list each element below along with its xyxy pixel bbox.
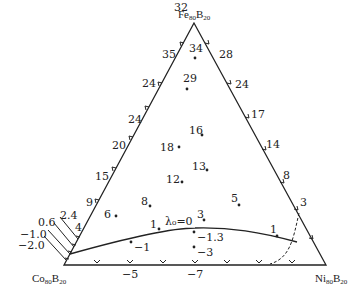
point-label: 5	[231, 192, 238, 205]
left-edge-label: 24	[128, 113, 142, 126]
point-label: 12	[166, 173, 180, 186]
bottom-edge-label: −5	[122, 268, 138, 281]
right-edge-label: 14	[266, 138, 280, 151]
point-label: 1	[270, 223, 277, 236]
point-label: 34	[189, 42, 203, 55]
point-label: −1	[134, 241, 150, 254]
point-label: 18	[160, 141, 174, 154]
ternary-diagram: Fe80B20 Co80B20 Ni80B20	[0, 0, 360, 293]
left-edge-label: 9	[86, 196, 93, 209]
point-label: −3	[197, 246, 213, 259]
point-label: 29	[183, 72, 197, 85]
curve-label: λ₀=0	[165, 215, 193, 228]
point-label: 1	[150, 218, 157, 231]
point-label: 13	[192, 160, 206, 173]
left-edge-label: 4	[75, 221, 82, 234]
left-edge-label: 24	[142, 77, 156, 90]
left-edge-label: 15	[95, 170, 109, 183]
right-edge-label: 3	[300, 196, 307, 209]
vertex-left-label: Co80B20	[32, 272, 67, 286]
point-label: 3	[197, 208, 204, 221]
right-edge-label: 17	[251, 108, 265, 121]
bottom-edge-ticks	[94, 260, 295, 263]
bottom-edge-label: −7	[187, 268, 203, 281]
left-edge-label: −2.0	[18, 239, 45, 252]
point-label: 8	[141, 195, 148, 208]
point-label: 16	[189, 124, 203, 137]
right-edge-label: 8	[283, 169, 290, 182]
vertex-right-label: Ni80B20	[315, 272, 348, 286]
left-edge-label: 2.4	[60, 209, 78, 222]
right-edge-ticks	[205, 40, 313, 239]
left-edge-label: 32	[174, 1, 188, 14]
point-label: −1.3	[197, 231, 224, 244]
point-label: 6	[104, 208, 111, 221]
right-edge-label: 28	[219, 48, 233, 61]
right-edge-label: 24	[235, 78, 249, 91]
left-edge-label: 20	[112, 139, 126, 152]
left-edge-label: 35	[162, 48, 176, 61]
lambda-zero-curve	[70, 228, 297, 254]
